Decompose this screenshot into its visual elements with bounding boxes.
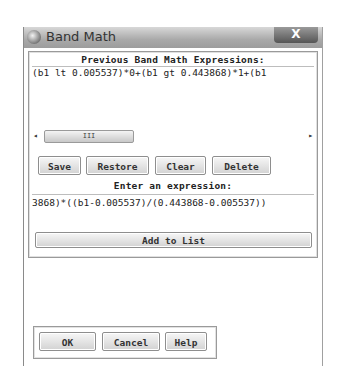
restore-button[interactable]: Restore	[86, 156, 149, 175]
close-button[interactable]: X	[274, 27, 318, 43]
cancel-button[interactable]: Cancel	[102, 332, 160, 351]
expression-panel: Previous Band Math Expressions: (b1 lt 0…	[28, 51, 318, 258]
window-title: Band Math	[46, 29, 116, 44]
scroll-right-arrow-icon[interactable]: ▸	[308, 130, 313, 142]
dialog-button-group: OK Cancel Help	[33, 326, 217, 359]
expression-input[interactable]: 3868)*((b1-0.005537)/(0.443868-0.005537)…	[32, 197, 314, 211]
save-button[interactable]: Save	[38, 156, 81, 175]
band-math-dialog: Band Math X Previous Band Math Expressio…	[23, 27, 323, 366]
divider	[32, 194, 314, 195]
list-item[interactable]: (b1 lt 0.005537)*0+(b1 gt 0.443868)*1+(b…	[32, 66, 314, 78]
ok-button[interactable]: OK	[39, 332, 96, 351]
scrollbar-thumb[interactable]: III	[44, 130, 134, 143]
enter-expression-label: Enter an expression:	[29, 180, 317, 191]
previous-expressions-label: Previous Band Math Expressions:	[29, 54, 317, 65]
title-bar[interactable]: Band Math X	[24, 27, 322, 48]
help-button[interactable]: Help	[165, 332, 207, 351]
horizontal-scrollbar[interactable]: ◂ III ▸	[33, 130, 313, 142]
delete-button[interactable]: Delete	[212, 156, 271, 175]
scroll-left-arrow-icon[interactable]: ◂	[33, 130, 38, 142]
app-globe-icon	[27, 30, 41, 44]
add-to-list-button[interactable]: Add to List	[35, 232, 312, 248]
clear-button[interactable]: Clear	[155, 156, 206, 175]
previous-expressions-list[interactable]: (b1 lt 0.005537)*0+(b1 gt 0.443868)*1+(b…	[32, 66, 314, 136]
